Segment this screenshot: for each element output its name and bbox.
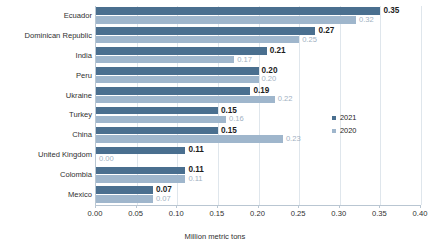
x-tick-mark: [95, 205, 96, 208]
bar-row: Peru0.200.20: [96, 66, 420, 86]
x-tick-label: 0.15: [209, 209, 224, 218]
bar-value-label: 0.15: [221, 126, 237, 134]
bar-2021[interactable]: 0.15: [96, 127, 218, 135]
legend-swatch-2020-icon: [332, 129, 336, 133]
gridline: [421, 6, 422, 205]
bar-2020[interactable]: 0.16: [96, 116, 226, 124]
bar-2021[interactable]: 0.21: [96, 47, 267, 55]
bar-row: Ecuador0.350.32: [96, 6, 420, 26]
bar-2021[interactable]: 0.15: [96, 107, 218, 115]
bar-2020[interactable]: 0.20: [96, 76, 259, 84]
bar-row: Colombia0.110.11: [96, 165, 420, 185]
bar-row: Mexico0.070.07: [96, 185, 420, 205]
x-tick-label: 0.10: [169, 209, 184, 218]
category-label: Dominican Republic: [24, 32, 92, 40]
bar-row: China0.150.23: [96, 125, 420, 145]
bar-value-label: 0.27: [318, 27, 334, 35]
x-tick-mark: [379, 205, 380, 208]
x-axis-title: Million metric tons: [0, 232, 430, 241]
bar-value-label: 0.19: [253, 87, 269, 95]
bar-value-label: 0.35: [383, 7, 399, 15]
x-tick-mark: [339, 205, 340, 208]
legend-swatch-2021-icon: [332, 116, 336, 120]
category-label: Mexico: [68, 191, 92, 199]
x-tick-label: 0.00: [88, 209, 103, 218]
bar-value-label: 0.22: [278, 96, 293, 104]
bar-2020[interactable]: 0.17: [96, 56, 234, 64]
x-tick-mark: [217, 205, 218, 208]
x-tick-mark: [176, 205, 177, 208]
category-label: India: [76, 52, 92, 60]
bar-row: India0.210.17: [96, 46, 420, 66]
category-label: Ukraine: [66, 92, 92, 100]
bar-value-label: 0.00: [99, 155, 114, 163]
x-tick-label: 0.25: [291, 209, 306, 218]
category-label: Colombia: [60, 171, 92, 179]
bar-2021[interactable]: 0.07: [96, 186, 153, 194]
x-tick-label: 0.35: [372, 209, 387, 218]
bar-2021[interactable]: 0.11: [96, 167, 185, 175]
bar-2021[interactable]: 0.35: [96, 7, 380, 15]
bar-value-label: 0.23: [286, 135, 301, 143]
bar-2021[interactable]: 0.27: [96, 27, 315, 35]
bar-value-label: 0.11: [188, 146, 203, 154]
category-label: Turkey: [69, 112, 92, 120]
bar-2020[interactable]: 0.07: [96, 195, 153, 203]
bar-2021[interactable]: 0.20: [96, 67, 259, 75]
bar-chart: Ecuador0.350.32Dominican Republic0.270.2…: [0, 0, 430, 252]
category-label: Ecuador: [64, 12, 92, 20]
legend-item-2020[interactable]: 2020: [332, 124, 356, 137]
bar-2020[interactable]: 0.11: [96, 175, 185, 183]
plot-area: Ecuador0.350.32Dominican Republic0.270.2…: [95, 6, 420, 205]
bar-2020[interactable]: 0.23: [96, 135, 283, 143]
x-tick-label: 0.40: [413, 209, 428, 218]
category-label: China: [72, 132, 92, 140]
legend-label-2020: 2020: [340, 126, 356, 135]
bar-value-label: 0.25: [302, 36, 317, 44]
bar-value-label: 0.11: [188, 175, 202, 183]
x-tick-label: 0.30: [331, 209, 346, 218]
bar-value-label: 0.21: [270, 47, 286, 55]
bar-value-label: 0.17: [237, 56, 252, 64]
x-tick-mark: [298, 205, 299, 208]
bar-row: United Kingdom0.110.00: [96, 145, 420, 165]
bar-2020[interactable]: 0.25: [96, 36, 299, 44]
x-tick-label: 0.20: [250, 209, 265, 218]
bar-row: Dominican Republic0.270.25: [96, 26, 420, 46]
bar-2020[interactable]: 0.32: [96, 16, 356, 24]
x-tick-mark: [420, 205, 421, 208]
bar-value-label: 0.16: [229, 116, 244, 124]
category-label: Peru: [76, 72, 92, 80]
bar-value-label: 0.32: [359, 16, 374, 24]
bar-value-label: 0.07: [156, 195, 171, 203]
chart-legend: 2021 2020: [332, 111, 356, 137]
legend-label-2021: 2021: [340, 113, 356, 122]
bar-2021[interactable]: 0.19: [96, 87, 250, 95]
x-tick-mark: [136, 205, 137, 208]
bar-2021[interactable]: 0.11: [96, 147, 185, 155]
bar-row: Turkey0.150.16: [96, 106, 420, 126]
bar-2020[interactable]: 0.22: [96, 96, 275, 104]
legend-item-2021[interactable]: 2021: [332, 111, 356, 124]
x-tick-mark: [258, 205, 259, 208]
bar-value-label: 0.20: [262, 76, 277, 84]
bar-row: Ukraine0.190.22: [96, 86, 420, 106]
x-tick-label: 0.05: [128, 209, 143, 218]
category-label: United Kingdom: [38, 151, 92, 159]
